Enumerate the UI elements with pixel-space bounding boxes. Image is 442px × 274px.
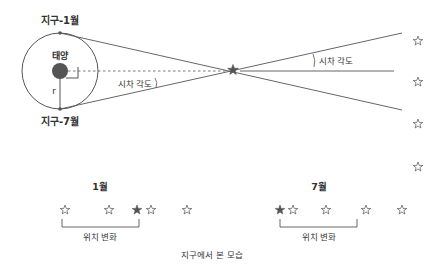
earth-jan-label: 지구-1월 xyxy=(41,14,79,26)
distant-star-icon xyxy=(413,119,423,128)
background-star-icon xyxy=(288,205,298,214)
position-change-bracket-jan xyxy=(62,219,139,227)
caption: 지구에서 본 모습 xyxy=(181,250,242,260)
background-star-icon xyxy=(104,205,114,214)
month-jul-label: 7월 xyxy=(311,181,327,192)
sun-label: 태양 xyxy=(52,50,69,61)
position-change-label-jul: 위치 변화 xyxy=(302,232,337,242)
parallax-arc-left xyxy=(155,78,157,88)
distant-star-icon xyxy=(413,77,423,86)
distant-star-icon xyxy=(413,36,423,45)
background-star-icon xyxy=(182,205,192,214)
parallax-diagram: 지구-1월 지구-7월 태양 r 시차 각도 시차 각도 1월 7월 위치 변화… xyxy=(0,0,442,274)
background-star-icon xyxy=(146,205,156,214)
parallax-angle-label-right: 시차 각도 xyxy=(319,56,354,66)
background-star-icon xyxy=(321,205,331,214)
parallax-arc-right xyxy=(313,54,315,67)
near-star-jul-icon xyxy=(275,205,285,214)
background-star-icon xyxy=(361,205,371,214)
earth-jul-label: 지구-7월 xyxy=(41,115,79,127)
background-star-icon xyxy=(397,205,407,214)
position-change-bracket-jul xyxy=(280,219,357,227)
radius-label: r xyxy=(52,86,56,96)
background-star-icon xyxy=(60,205,70,214)
near-star-jan-icon xyxy=(132,205,142,214)
position-change-label-jan: 위치 변화 xyxy=(83,232,118,242)
parallax-angle-label-left: 시차 각도 xyxy=(118,79,153,89)
distant-star-icon xyxy=(413,162,423,171)
month-jan-label: 1월 xyxy=(92,181,108,192)
